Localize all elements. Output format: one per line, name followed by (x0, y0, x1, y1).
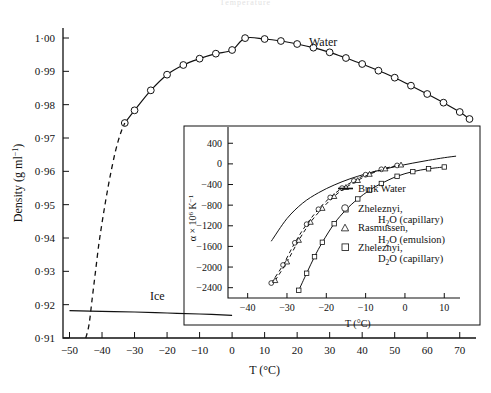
legend-label-line2: D2O (capillary) (378, 253, 444, 267)
data-point-circle (180, 62, 187, 69)
inset-series-rasmussen-h2o-emulsion-: Bulk WaterZheleznyi,H2O (capillary)Rasmu… (273, 162, 447, 292)
series-water: WaterIce−2400−2000−1600−1200−800−4000400… (70, 35, 481, 338)
main-xtick-label: −30 (126, 344, 144, 356)
data-point-circle (424, 91, 431, 98)
main-ytick-label: 0·98 (35, 99, 56, 111)
main-ytick-label: 0·95 (35, 199, 56, 211)
data-point-circle (261, 36, 268, 43)
inset-xtick-label: −30 (279, 302, 295, 313)
inset-xtick-label: 0 (402, 302, 407, 313)
legend-item: Zheleznyi,D2O (capillary) (342, 242, 444, 268)
legend-triangle-swatch (341, 224, 348, 231)
inset-series-bulk-water: Bulk WaterZheleznyi,H2O (capillary)Rasmu… (269, 156, 456, 292)
inset-xtick-label: 10 (439, 302, 449, 313)
chart-canvas: 0·910·920·930·940·950·960·970·980·991·00… (0, 0, 491, 393)
inset-point-square (442, 165, 446, 169)
inset-series-zheleznyi-h2o-capillary-: Bulk WaterZheleznyi,H2O (capillary)Rasmu… (269, 162, 447, 292)
top-partial-text: Temperature (0, 0, 491, 7)
main-ytick-label: 0·92 (35, 299, 55, 311)
legend-label-line1: Rasmussen, (358, 222, 408, 233)
main-ytick-label: 1·00 (35, 32, 56, 44)
data-point-circle (147, 87, 154, 94)
data-point-circle (359, 61, 366, 68)
main-xtick-label: 60 (422, 344, 434, 356)
series-line (86, 123, 125, 338)
data-point-circle (440, 99, 447, 106)
series-line (125, 37, 470, 123)
inset-axes: −2400−2000−1600−1200−800−4000400−40−30−2… (184, 126, 480, 330)
inset-point-square (297, 288, 301, 292)
inset-ytick-label: −1200 (196, 220, 222, 231)
inset-yaxis-label: α × 106 K−1 (187, 194, 198, 241)
inset-point-square (312, 255, 316, 259)
main-xtick-label: 20 (292, 344, 304, 356)
inset-point-square (395, 174, 399, 178)
main-xtick-label: 0 (229, 344, 235, 356)
inset-ytick-label: −2400 (196, 282, 222, 293)
inset-ytick-label: −1600 (196, 241, 222, 252)
inset-ytick-label: −800 (201, 200, 222, 211)
data-point-circle (294, 41, 301, 48)
main-axis-lines (63, 28, 476, 338)
inset-xtick-label: −10 (358, 302, 374, 313)
inset-ytick-label: 0 (217, 158, 222, 169)
series-water-extrapolated-: WaterIce−2400−2000−1600−1200−800−4000400… (70, 35, 481, 338)
main-yaxis-label: Density (g ml−1) (11, 144, 25, 223)
main-ytick-label: 0·99 (35, 65, 56, 77)
main-xaxis-label: T (°C) (249, 363, 280, 377)
ice-curve-label: Ice (150, 289, 165, 303)
inset-ytick-label: −2000 (196, 262, 222, 273)
main-xtick-label: −40 (93, 344, 111, 356)
inset-point-square (332, 222, 336, 226)
data-point-circle (164, 71, 171, 78)
inset-xtick-label: −40 (240, 302, 256, 313)
series-ice: WaterIce−2400−2000−1600−1200−800−4000400… (70, 35, 481, 330)
main-xtick-label: −20 (158, 344, 176, 356)
data-point-circle (242, 35, 249, 42)
data-point-circle (212, 50, 219, 57)
main-ytick-label: 0·93 (35, 265, 56, 277)
inset-legend: Bulk WaterZheleznyi,H2O (capillary)Rasmu… (338, 183, 446, 267)
data-point-circle (466, 116, 473, 123)
data-point-circle (277, 38, 284, 45)
data-point-circle (196, 55, 203, 62)
main-xtick-label: −50 (61, 344, 79, 356)
main-xtick-label: 70 (454, 344, 466, 356)
inset-point-square (320, 240, 324, 244)
main-xtick-label: 40 (357, 344, 369, 356)
inset-series-zheleznyi-d2o-capillary-: Bulk WaterZheleznyi,H2O (capillary)Rasmu… (297, 165, 447, 293)
data-point-circle (326, 49, 333, 56)
inset-xaxis-label: T (°C) (345, 318, 371, 330)
main-xtick-label: −10 (191, 344, 209, 356)
legend-label-line1: Zheleznyi, (358, 242, 403, 253)
main-axes: 0·910·920·930·940·950·960·970·980·991·00… (11, 28, 480, 377)
inset-xtick-label: −20 (318, 302, 334, 313)
main-ytick-label: 0·94 (35, 232, 56, 244)
inset-point-square (411, 169, 415, 173)
inset-ytick-label: 400 (207, 138, 222, 149)
main-xtick-label: 10 (259, 344, 271, 356)
inset-point-square (356, 197, 360, 201)
data-point-circle (408, 82, 415, 89)
inset-point-square (426, 167, 430, 171)
data-point-circle (229, 47, 236, 54)
series-line (70, 311, 233, 316)
legend-label-line1: Zheleznyi, (358, 203, 403, 214)
legend-label-line1: Bulk Water (358, 183, 406, 194)
main-ytick-label: 0·96 (35, 165, 56, 177)
data-point-circle (391, 74, 398, 81)
inset-ytick-label: −400 (201, 179, 222, 190)
main-xtick-label: 50 (389, 344, 401, 356)
inset-point-square (304, 271, 308, 275)
main-ytick-label: 0·97 (35, 132, 56, 144)
inset-point-triangle (284, 259, 289, 264)
main-labels: WaterIce−2400−2000−1600−1200−800−4000400… (150, 35, 480, 330)
data-point-circle (375, 67, 382, 74)
figure-root: Temperature 0·910·920·930·940·950·960·97… (0, 0, 491, 393)
data-point-circle (456, 109, 463, 116)
water-curve-label: Water (309, 35, 337, 49)
data-point-circle (343, 55, 350, 62)
legend-square-swatch (342, 244, 349, 251)
main-xtick-label: 30 (324, 344, 336, 356)
legend-circle-swatch (342, 205, 349, 212)
